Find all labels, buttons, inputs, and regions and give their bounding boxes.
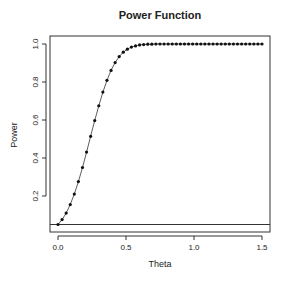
data-point: [162, 42, 165, 45]
data-point: [256, 42, 259, 45]
y-tick-label: 0.4: [31, 152, 40, 164]
power-function-chart: Power Function 0.00.51.01.5 0.20.40.60.8…: [0, 0, 282, 284]
data-point: [183, 42, 186, 45]
data-point: [224, 42, 227, 45]
data-point: [114, 61, 117, 64]
data-point: [138, 43, 141, 46]
x-axis: 0.00.51.01.5: [52, 236, 268, 252]
y-tick-label: 0.8: [31, 76, 40, 88]
data-point: [260, 42, 263, 45]
x-tick-label: 1.0: [188, 243, 200, 252]
data-point: [232, 42, 235, 45]
data-point: [199, 42, 202, 45]
data-point: [89, 135, 92, 138]
y-axis: 0.20.40.60.81.0: [31, 38, 46, 202]
data-point: [65, 212, 68, 215]
data-point: [252, 42, 255, 45]
data-point: [97, 104, 100, 107]
data-point: [248, 42, 251, 45]
chart-title: Power Function: [119, 9, 202, 21]
plot-frame: [50, 36, 270, 232]
x-tick-label: 0.5: [120, 243, 132, 252]
data-point: [171, 42, 174, 45]
data-point: [240, 42, 243, 45]
data-point: [211, 42, 214, 45]
data-point: [142, 43, 145, 46]
data-point: [220, 42, 223, 45]
y-tick-label: 1.0: [31, 38, 40, 50]
data-point: [56, 223, 59, 226]
y-tick-label: 0.2: [31, 190, 40, 202]
power-series: [56, 42, 263, 226]
data-point: [195, 42, 198, 45]
data-point: [69, 203, 72, 206]
data-point: [175, 42, 178, 45]
data-point: [81, 166, 84, 169]
y-tick-label: 0.6: [31, 114, 40, 126]
data-point: [244, 42, 247, 45]
data-point: [105, 79, 108, 82]
data-point: [118, 55, 121, 58]
y-axis-label: Power: [9, 122, 19, 148]
data-point: [146, 43, 149, 46]
data-point: [122, 51, 125, 54]
data-point: [101, 90, 104, 93]
data-point: [77, 180, 80, 183]
data-point: [203, 42, 206, 45]
data-point: [228, 42, 231, 45]
data-point: [154, 42, 157, 45]
data-point: [150, 43, 153, 46]
data-point: [158, 42, 161, 45]
data-point: [93, 119, 96, 122]
data-point: [236, 42, 239, 45]
data-point: [207, 42, 210, 45]
data-point: [191, 42, 194, 45]
data-point: [60, 218, 63, 221]
x-tick-label: 1.5: [256, 243, 268, 252]
data-point: [73, 193, 76, 196]
data-point: [85, 151, 88, 154]
data-point: [216, 42, 219, 45]
x-axis-label: Theta: [148, 259, 171, 269]
data-point: [167, 42, 170, 45]
data-point: [126, 48, 129, 51]
data-point: [179, 42, 182, 45]
data-point: [109, 69, 112, 72]
x-tick-label: 0.0: [52, 243, 64, 252]
data-point: [187, 42, 190, 45]
data-point: [130, 45, 133, 48]
data-point: [134, 44, 137, 47]
